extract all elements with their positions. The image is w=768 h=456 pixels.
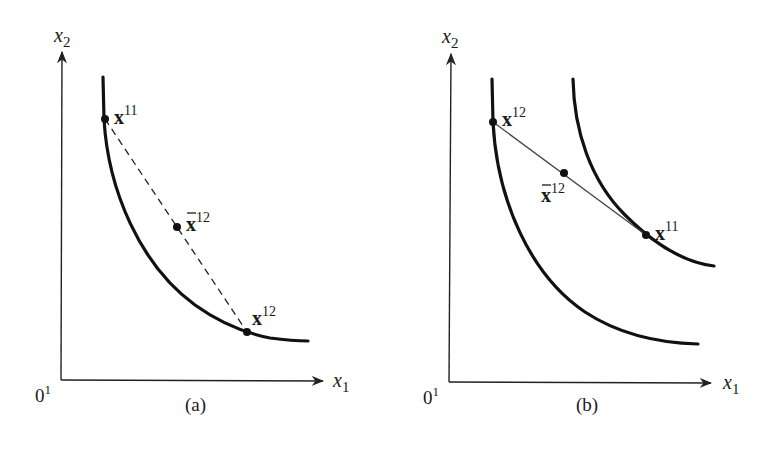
caption-b: (b): [576, 394, 598, 416]
label-x11-b: x11: [655, 219, 678, 244]
y-axis-label-b: x2: [441, 25, 458, 51]
point-x12-b: [489, 118, 497, 126]
panel-b: x2 x1 01 x12 x12 x11 (b): [423, 25, 739, 416]
caption-a: (a): [185, 394, 206, 416]
y-axis-a: [61, 52, 62, 380]
x-axis-b: [449, 382, 711, 383]
x-axis-label-b: x1: [722, 371, 739, 397]
y-axis-label-a: x2: [53, 24, 70, 50]
origin-label-a: 01: [35, 382, 51, 406]
point-x12-a: [243, 328, 251, 336]
point-xbar12-b: [560, 169, 568, 177]
indifference-curve-figure: x2 x1 01 x11 x12 x12 (a): [0, 0, 768, 456]
origin-label-b: 01: [423, 384, 439, 408]
x-axis-a: [61, 380, 323, 381]
y-axis-b: [449, 54, 451, 382]
point-x11-b: [642, 231, 650, 239]
label-x12-a: x12: [252, 304, 276, 329]
label-x12-b: x12: [502, 105, 526, 130]
label-x11-a: x11: [114, 103, 137, 128]
chord-b: [493, 122, 646, 235]
x-axis-label-a: x1: [332, 369, 349, 395]
point-xbar12-a: [173, 223, 181, 231]
panel-a: x2 x1 01 x11 x12 x12 (a): [35, 24, 349, 416]
label-xbar12-a: x12: [186, 210, 210, 235]
point-x11-a: [101, 115, 109, 123]
